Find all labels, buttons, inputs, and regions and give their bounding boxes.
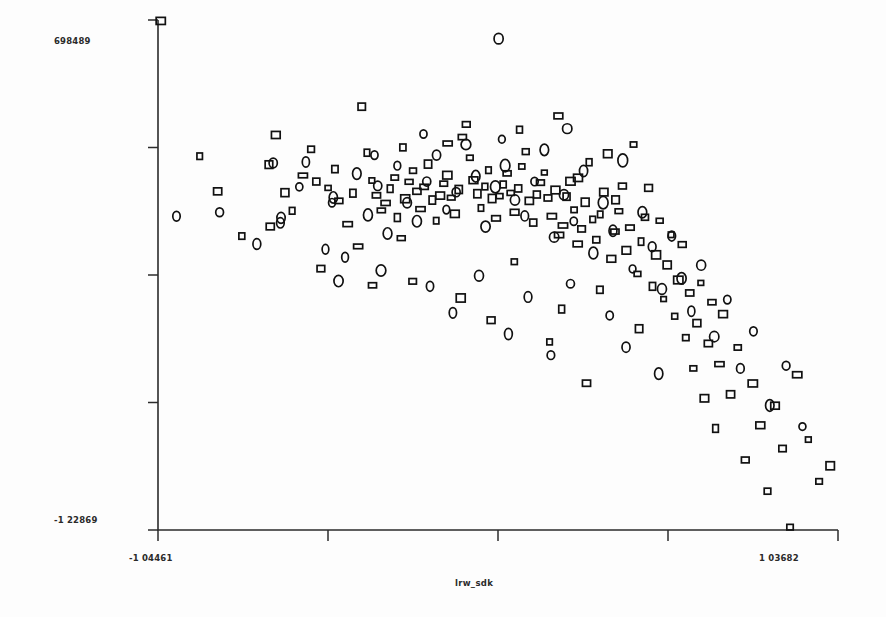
x-axis-max-tick-label: 1 03682 bbox=[759, 553, 799, 563]
axes bbox=[158, 20, 838, 530]
x-axis-title: lrw_sdk bbox=[455, 578, 493, 588]
scatter-plot-figure: 698489 -1 22869 -1 04461 1 03682 lrw_sdk bbox=[0, 0, 886, 617]
plot-canvas bbox=[0, 0, 886, 617]
x-axis-min-tick-label: -1 04461 bbox=[129, 553, 173, 563]
axis-ticks bbox=[148, 20, 838, 541]
data-points bbox=[156, 17, 834, 530]
y-axis-min-tick-label: -1 22869 bbox=[54, 515, 98, 525]
y-axis-max-tick-label: 698489 bbox=[54, 36, 91, 46]
